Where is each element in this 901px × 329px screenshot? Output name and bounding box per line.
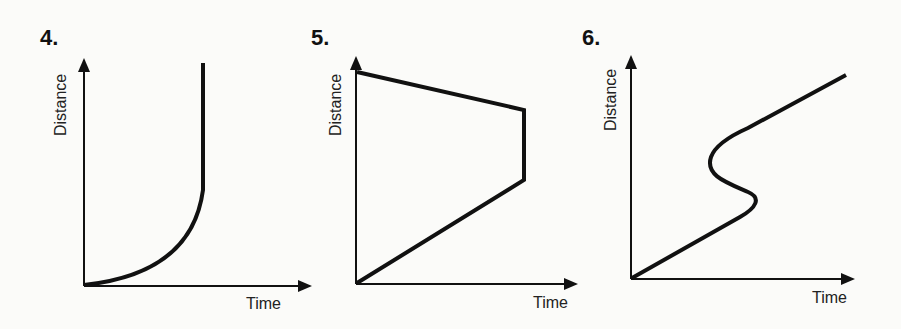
graph-line <box>357 72 524 283</box>
y-axis-arrow-icon <box>625 55 637 69</box>
distance-time-graphs-figure: 4. Distance Time 5. Distance Time 6. Dis… <box>0 0 901 329</box>
graph-line <box>84 63 203 285</box>
graph-number: 5. <box>311 25 329 50</box>
graph-line <box>632 75 846 278</box>
y-axis-label: Distance <box>602 69 619 131</box>
x-axis-label: Time <box>533 294 568 311</box>
x-axis-arrow-icon <box>841 273 855 285</box>
y-axis-arrow-icon <box>78 58 90 72</box>
graph-5: 5. Distance Time <box>311 25 578 311</box>
x-axis-label: Time <box>246 295 281 312</box>
graph-number: 6. <box>582 25 600 50</box>
x-axis-arrow-icon <box>564 278 578 290</box>
y-axis-label: Distance <box>52 74 69 136</box>
graph-6: 6. Distance Time <box>582 25 855 306</box>
y-axis-label: Distance <box>327 74 344 136</box>
x-axis-label: Time <box>812 289 847 306</box>
graph-4: 4. Distance Time <box>40 25 312 312</box>
y-axis-arrow-icon <box>350 56 362 70</box>
graph-number: 4. <box>40 25 58 50</box>
x-axis-arrow-icon <box>298 280 312 292</box>
